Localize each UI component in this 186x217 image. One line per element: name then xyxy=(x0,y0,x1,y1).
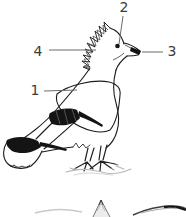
callout-1-label: 1 xyxy=(28,83,42,98)
bird-crown xyxy=(110,28,124,44)
wing-band-streak xyxy=(78,111,103,127)
bird-crest xyxy=(82,22,110,70)
cere-line xyxy=(125,45,131,48)
callout-2-label: 2 xyxy=(117,0,131,15)
callout-3-label: 3 xyxy=(165,44,179,59)
bird-illustration xyxy=(0,0,186,217)
second-figure-partial xyxy=(35,200,186,217)
second-figure-crest-triangle xyxy=(93,200,110,217)
bird-near-foot xyxy=(90,161,115,171)
bird-eye xyxy=(115,44,120,49)
bird-back xyxy=(11,68,90,146)
second-figure-left-curve xyxy=(35,209,82,213)
figure-canvas: 1 2 3 4 xyxy=(0,0,186,217)
callout-4-label: 4 xyxy=(31,44,45,59)
bird-legs xyxy=(73,145,118,171)
ground-shading xyxy=(66,166,131,175)
cheek-line xyxy=(113,53,124,60)
bird-throat xyxy=(116,56,127,70)
bird-vent-feathers xyxy=(73,143,90,148)
